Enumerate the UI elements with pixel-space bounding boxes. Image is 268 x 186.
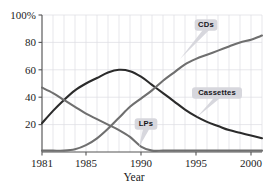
y-axis-tick-label: 20 xyxy=(25,118,37,130)
x-axis-title: Year xyxy=(123,171,144,183)
y-axis-tick-label: 40 xyxy=(25,91,37,103)
callout-label: Cassettes xyxy=(198,88,236,97)
chart-container: 20406080100% 19811985199019952000 Year C… xyxy=(0,0,268,186)
x-axis-tick-label: 1985 xyxy=(75,157,98,169)
x-axis-tick-label: 1995 xyxy=(185,157,208,169)
y-axis-tick-label: 80 xyxy=(25,36,37,48)
x-axis-tick-label: 1990 xyxy=(130,157,153,169)
x-axis-tick-label: 2000 xyxy=(240,157,263,169)
callout-label: LPs xyxy=(139,119,154,128)
y-axis-tick-label: 100% xyxy=(10,9,36,21)
callout-label: CDs xyxy=(198,20,214,29)
vertical-gridlines xyxy=(42,15,262,152)
music-format-market-share-line-chart: 20406080100% 19811985199019952000 Year C… xyxy=(0,0,268,186)
x-axis-tick-label: 1981 xyxy=(31,157,53,169)
y-axis-tick-label: 60 xyxy=(25,64,37,76)
